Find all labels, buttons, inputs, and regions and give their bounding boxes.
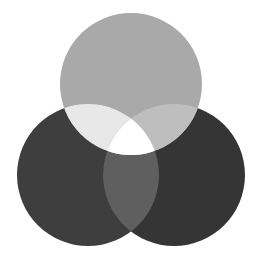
venn-diagram	[0, 0, 254, 266]
